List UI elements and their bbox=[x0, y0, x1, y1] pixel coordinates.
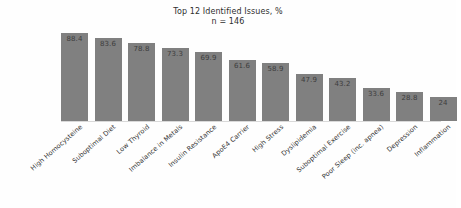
bar-value-label: 61.6 bbox=[229, 62, 256, 70]
x-axis-tick-label-text: Poor Sleep (inc. apnea) bbox=[321, 123, 386, 181]
bar-value-label: 78.8 bbox=[128, 45, 155, 53]
bar-value-label: 88.4 bbox=[61, 35, 88, 43]
page-title: Top 12 Identified Issues, % bbox=[0, 7, 456, 16]
bar-value-label: 43.2 bbox=[329, 80, 356, 88]
bar-value-label: 69.9 bbox=[195, 54, 222, 62]
bar-value-label: 47.9 bbox=[296, 76, 323, 84]
x-axis-tick-label-text: High Stress bbox=[250, 123, 284, 154]
bar[interactable]: 88.4 bbox=[61, 33, 88, 121]
bar-value-label: 83.6 bbox=[95, 40, 122, 48]
x-axis-tick-label-text: Depression bbox=[385, 123, 419, 154]
plot-area: 88.483.678.873.369.961.658.947.943.233.6… bbox=[61, 22, 441, 121]
bar-value-label: 58.9 bbox=[262, 65, 289, 73]
x-axis-category-labels: High HomocysteineSuboptimal DietLow Thyr… bbox=[0, 121, 456, 208]
bar-slot: 88.4 bbox=[61, 22, 88, 121]
bar-value-label: 73.3 bbox=[162, 50, 189, 58]
